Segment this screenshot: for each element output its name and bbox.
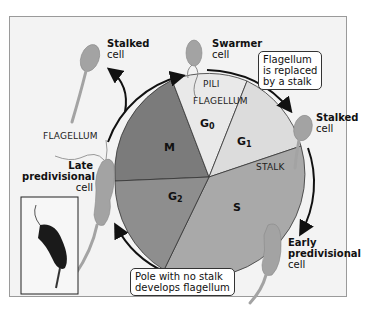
phase-label-g0: G0 — [200, 117, 215, 131]
phase-label-s: S — [233, 201, 241, 214]
label-stalk: STALK — [256, 162, 285, 172]
label-early-predivisional-cell: Early predivisional cell — [288, 237, 361, 270]
label-late-predivisional-cell: Late predivisional cell — [22, 160, 93, 193]
label-flagellum-top: FLAGELLUM — [193, 96, 248, 106]
arrow-late-to-stalked — [110, 70, 126, 112]
phase-label-m: M — [164, 141, 175, 154]
label-stalked-cell-top-left: Stalked cell — [107, 38, 149, 60]
label-swarmer-cell: Swarmer cell — [212, 38, 262, 60]
stalked-cell-top-left — [72, 42, 103, 122]
label-flagellum-left: FLAGELLUM — [43, 131, 98, 141]
label-pili: PILI — [203, 79, 220, 89]
phase-label-g2: G2 — [168, 190, 183, 204]
callout-flagellum-replaced: Flagellum is replaced by a stalk — [258, 51, 322, 90]
phase-label-g1: G1 — [237, 135, 252, 149]
micrograph-image — [21, 197, 78, 294]
callout-pole-develops-flagellum: Pole with no stalk develops flagellum — [130, 268, 235, 296]
label-stalked-cell-right: Stalked cell — [316, 112, 358, 134]
